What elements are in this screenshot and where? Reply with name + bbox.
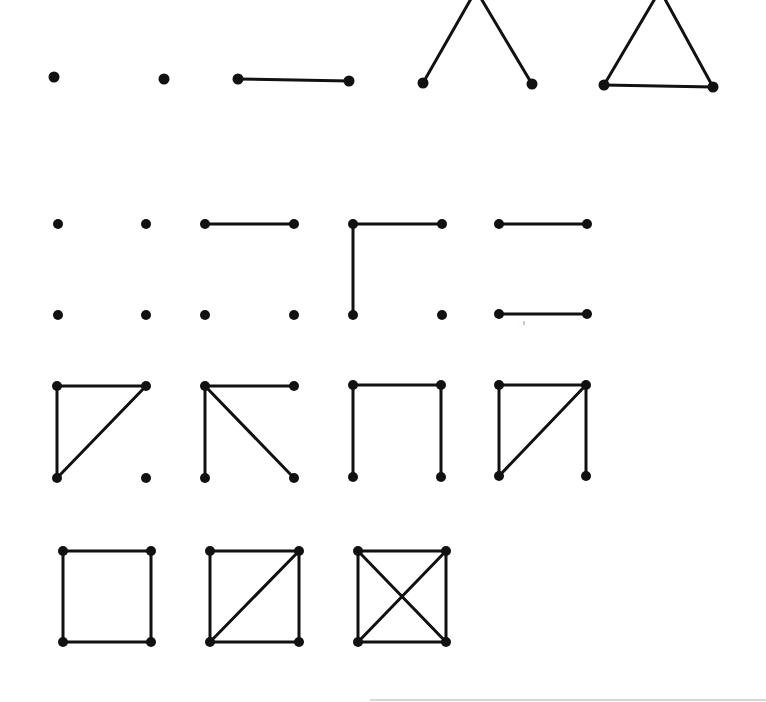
graph-vertex xyxy=(289,219,299,229)
graph-vertex xyxy=(581,471,591,481)
graph-vertex xyxy=(582,219,592,229)
graph-vertex xyxy=(200,381,210,391)
graph-vertex xyxy=(294,546,304,556)
graph-edge xyxy=(423,0,476,83)
graph-vertex xyxy=(344,76,355,87)
graph-vertex xyxy=(436,472,446,482)
graph-vertex xyxy=(437,219,447,229)
graph-edge xyxy=(205,386,294,478)
graph-vertex xyxy=(200,473,210,483)
graph-vertex xyxy=(289,473,299,483)
graph-vertex xyxy=(146,546,156,556)
graph-vertex xyxy=(708,82,719,93)
graph-vertex xyxy=(58,637,68,647)
graph-vertex xyxy=(581,380,591,390)
graph-vertex xyxy=(200,219,210,229)
graph-vertex xyxy=(494,471,504,481)
graph-vertex xyxy=(289,381,299,391)
graph-edge xyxy=(604,0,660,85)
graph-vertex xyxy=(348,380,358,390)
graph-g4-2b xyxy=(494,219,592,319)
graph-vertex xyxy=(289,310,299,320)
graph-vertex xyxy=(353,637,363,647)
graph-vertex xyxy=(441,637,451,647)
graph-vertex xyxy=(348,219,358,229)
graph-vertex xyxy=(52,473,62,483)
graph-vertex xyxy=(353,546,363,556)
graph-g4-2a xyxy=(348,219,447,320)
graph-g4-3c xyxy=(348,380,446,482)
graph-vertex xyxy=(494,380,504,390)
graph-g3-0 xyxy=(49,72,170,85)
graph-vertex xyxy=(141,310,151,320)
stray-mark: ı xyxy=(523,319,525,327)
graph-vertex xyxy=(141,473,151,483)
graph-g4-3a xyxy=(52,381,151,483)
graph-edge xyxy=(604,85,713,87)
scan-edge-rule xyxy=(370,699,766,701)
graph-edge xyxy=(238,79,349,81)
graph-g4-0 xyxy=(53,219,151,320)
graph-edge xyxy=(57,386,146,478)
graph-vertex xyxy=(233,74,244,85)
graph-vertex xyxy=(348,472,358,482)
graph-edge xyxy=(660,0,713,87)
graph-edge xyxy=(476,0,532,84)
graph-vertex xyxy=(582,309,592,319)
graph-vertex xyxy=(436,380,446,390)
graph-vertex xyxy=(599,80,610,91)
graph-vertex xyxy=(141,219,151,229)
graph-vertex xyxy=(494,309,504,319)
graph-vertex xyxy=(494,219,504,229)
graph-vertex xyxy=(141,381,151,391)
graph-vertex xyxy=(58,546,68,556)
graph-vertex xyxy=(159,74,170,85)
graph-vertex xyxy=(527,79,538,90)
graph-vertex xyxy=(49,72,60,83)
graph-edge xyxy=(210,551,299,642)
graph-g3-1 xyxy=(233,74,355,87)
graph-edge xyxy=(499,385,586,476)
graph-vertex xyxy=(205,637,215,647)
graph-vertex xyxy=(441,546,451,556)
graph-vertex xyxy=(52,381,62,391)
graph-g4-1 xyxy=(200,219,299,320)
graph-vertex xyxy=(437,310,447,320)
graph-g4-6 xyxy=(353,546,451,647)
graph-vertex xyxy=(348,310,358,320)
graph-g4-3b xyxy=(200,381,299,483)
graph-g3-3 xyxy=(599,0,719,93)
graph-g3-2 xyxy=(418,0,538,90)
graph-vertex xyxy=(146,637,156,647)
graph-g4-5 xyxy=(205,546,304,647)
graph-vertex xyxy=(294,637,304,647)
graph-vertex xyxy=(200,310,210,320)
graph-vertex xyxy=(53,219,63,229)
graph-vertex xyxy=(418,78,429,89)
graph-diagram: ı xyxy=(0,0,766,702)
graph-g4-4c xyxy=(58,546,156,647)
graph-vertex xyxy=(53,310,63,320)
graph-g4-4 xyxy=(494,380,591,481)
graph-vertex xyxy=(205,546,215,556)
